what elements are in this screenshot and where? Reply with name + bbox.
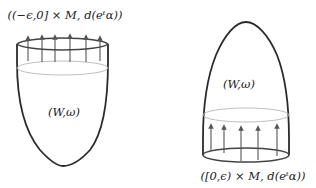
left-cobordism: ((−ϵ,0] × M, d(eᵗα)) (W,ω): [8, 8, 123, 166]
right-collar-boundary-ellipse: [203, 108, 289, 122]
right-bottom-label: ([0,ϵ) × M, d(eᵗα)): [200, 169, 305, 183]
left-body-label: (W,ω): [48, 105, 80, 119]
right-bottom-rim-back: [203, 148, 289, 155]
right-bottom-rim-front: [203, 155, 289, 162]
symplectic-cobordism-diagram: ((−ϵ,0] × M, d(eᵗα)) (W,ω): [0, 0, 316, 188]
right-cobordism: (W,ω) ([0,ϵ) × M, d(eᵗα)): [200, 22, 305, 183]
right-body-label: (W,ω): [223, 77, 255, 91]
left-top-rim-front: [17, 44, 108, 50]
left-top-label: ((−ϵ,0] × M, d(eᵗα)): [8, 8, 123, 22]
left-collar-boundary-ellipse: [17, 61, 108, 75]
left-top-rim-back: [17, 38, 108, 44]
right-liouville-arrows: [211, 126, 277, 161]
